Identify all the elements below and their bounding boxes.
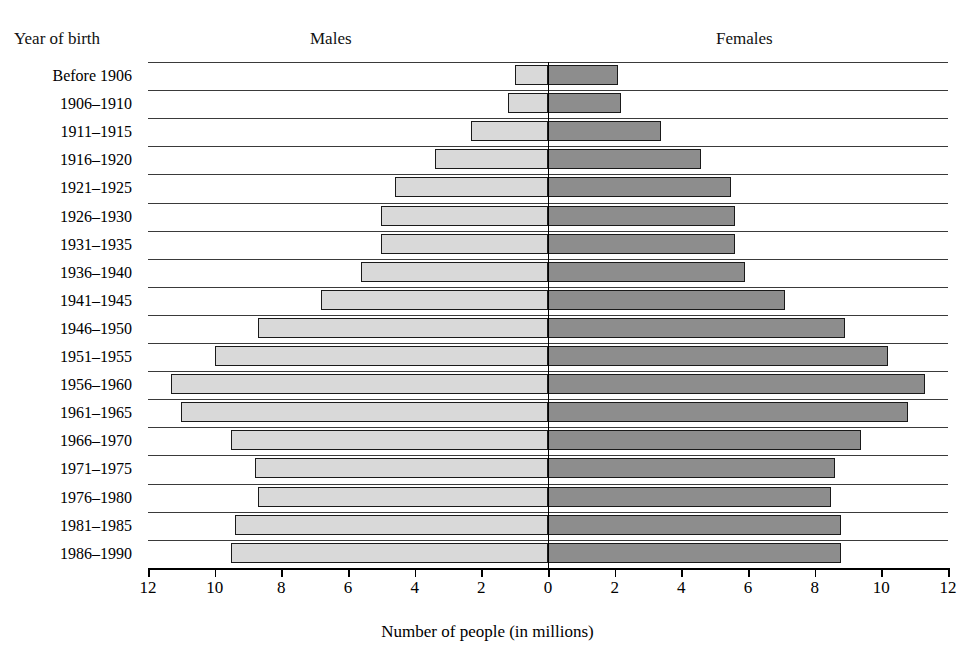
bar-female bbox=[548, 402, 908, 422]
bar-male bbox=[231, 543, 548, 563]
bar-male bbox=[508, 93, 548, 113]
x-axis-tick bbox=[281, 568, 283, 577]
x-axis-tick-label: 6 bbox=[328, 578, 368, 598]
x-axis-tick bbox=[548, 568, 550, 577]
x-axis-tick-label: 12 bbox=[928, 578, 968, 598]
bar-female bbox=[548, 346, 888, 366]
x-axis-tick-label: 2 bbox=[461, 578, 501, 598]
zero-axis-line bbox=[548, 62, 549, 570]
x-axis-tick-label: 12 bbox=[128, 578, 168, 598]
year-of-birth-axis-title: Year of birth bbox=[14, 29, 100, 49]
bar-male bbox=[231, 430, 548, 450]
bar-male bbox=[255, 458, 548, 478]
bar-male bbox=[181, 402, 548, 422]
bar-male bbox=[395, 177, 548, 197]
x-axis-title: Number of people (in millions) bbox=[0, 622, 975, 642]
x-axis-tick bbox=[681, 568, 683, 577]
bar-male bbox=[381, 234, 548, 254]
category-label: 1956–1960 bbox=[60, 371, 132, 399]
category-label: 1966–1970 bbox=[60, 427, 132, 455]
x-axis-tick bbox=[348, 568, 350, 577]
bar-male bbox=[471, 121, 548, 141]
bar-male bbox=[258, 318, 548, 338]
bar-male bbox=[258, 487, 548, 507]
x-axis-tick bbox=[481, 568, 483, 577]
x-axis-tick-label: 10 bbox=[195, 578, 235, 598]
category-label: 1961–1965 bbox=[60, 399, 132, 427]
category-label: 1911–1915 bbox=[61, 118, 132, 146]
x-axis-tick-label: 2 bbox=[595, 578, 635, 598]
x-axis-tick bbox=[815, 568, 817, 577]
category-label: 1921–1925 bbox=[60, 174, 132, 202]
category-label: Before 1906 bbox=[52, 62, 132, 90]
category-axis-labels: Before 19061906–19101911–19151916–192019… bbox=[0, 62, 140, 568]
x-axis-tick bbox=[215, 568, 217, 577]
x-axis-tick-label: 10 bbox=[861, 578, 901, 598]
bar-male bbox=[321, 290, 548, 310]
x-axis-tick-label: 8 bbox=[795, 578, 835, 598]
category-label: 1936–1940 bbox=[60, 259, 132, 287]
x-axis-tick-label: 0 bbox=[528, 578, 568, 598]
bar-female bbox=[548, 177, 731, 197]
x-axis-tick-label: 4 bbox=[661, 578, 701, 598]
bar-male bbox=[381, 206, 548, 226]
bar-male bbox=[171, 374, 548, 394]
bar-female bbox=[548, 290, 785, 310]
category-label: 1976–1980 bbox=[60, 484, 132, 512]
bar-female bbox=[548, 543, 841, 563]
x-axis-tick-label: 8 bbox=[261, 578, 301, 598]
bar-male bbox=[215, 346, 548, 366]
bar-female bbox=[548, 487, 831, 507]
x-axis-tick-label: 4 bbox=[395, 578, 435, 598]
category-label: 1971–1975 bbox=[60, 455, 132, 483]
bar-male bbox=[361, 262, 548, 282]
bar-male bbox=[235, 515, 548, 535]
bar-female bbox=[548, 430, 861, 450]
legend-label-males: Males bbox=[310, 29, 352, 49]
x-axis-tick bbox=[148, 568, 150, 577]
bar-female bbox=[548, 65, 618, 85]
category-label: 1951–1955 bbox=[60, 343, 132, 371]
category-label: 1926–1930 bbox=[60, 203, 132, 231]
population-pyramid-chart: Year of birth Males Females Before 19061… bbox=[0, 0, 975, 654]
x-axis-tick bbox=[748, 568, 750, 577]
bar-female bbox=[548, 149, 701, 169]
category-label: 1906–1910 bbox=[60, 90, 132, 118]
bar-female bbox=[548, 93, 621, 113]
legend-label-females: Females bbox=[716, 29, 773, 49]
bar-female bbox=[548, 234, 735, 254]
x-axis-tick bbox=[948, 568, 950, 577]
category-label: 1916–1920 bbox=[60, 146, 132, 174]
category-label: 1981–1985 bbox=[60, 512, 132, 540]
category-label: 1931–1935 bbox=[60, 231, 132, 259]
bar-female bbox=[548, 206, 735, 226]
bar-female bbox=[548, 374, 925, 394]
x-axis-tick bbox=[615, 568, 617, 577]
x-axis-tick-label: 6 bbox=[728, 578, 768, 598]
bar-male bbox=[515, 65, 548, 85]
x-axis-tick bbox=[415, 568, 417, 577]
bar-male bbox=[435, 149, 548, 169]
category-label: 1986–1990 bbox=[60, 540, 132, 568]
bar-female bbox=[548, 515, 841, 535]
category-label: 1946–1950 bbox=[60, 315, 132, 343]
bar-female bbox=[548, 318, 845, 338]
category-label: 1941–1945 bbox=[60, 287, 132, 315]
x-axis-tick bbox=[881, 568, 883, 577]
bar-female bbox=[548, 262, 745, 282]
bar-female bbox=[548, 121, 661, 141]
bar-female bbox=[548, 458, 835, 478]
